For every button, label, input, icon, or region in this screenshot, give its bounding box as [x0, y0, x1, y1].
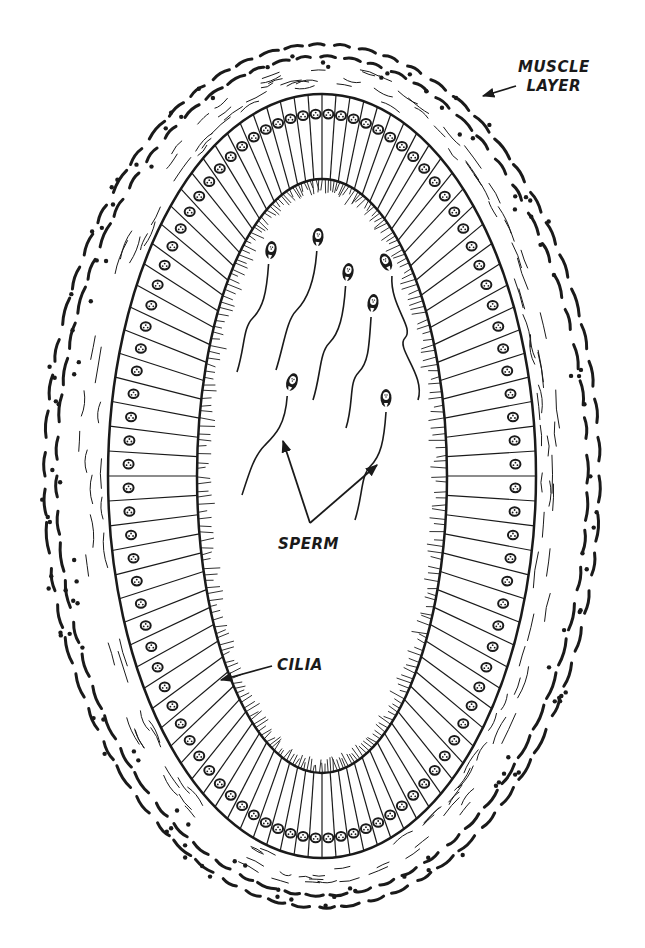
epithelial-cell-layer [108, 94, 536, 858]
arrow-muscle-layer [483, 86, 516, 96]
label-muscle-line1: MUSCLE [518, 58, 590, 77]
tubule-cross-section-diagram [0, 0, 645, 948]
label-cilia: CILIA [277, 656, 323, 675]
label-muscle-layer: MUSCLE LAYER [518, 58, 590, 96]
label-sperm: SPERM [278, 535, 339, 554]
label-muscle-line2: LAYER [518, 77, 590, 96]
